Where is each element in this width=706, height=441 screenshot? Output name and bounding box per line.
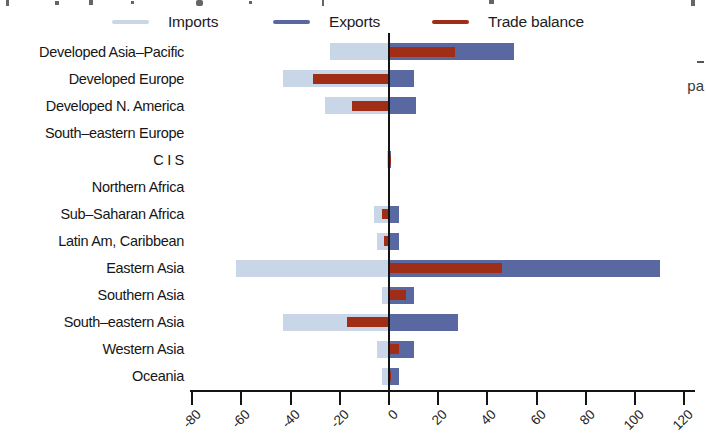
x-axis-tick xyxy=(683,392,685,405)
exports-bar xyxy=(389,206,399,223)
x-axis-tick xyxy=(585,392,587,405)
category-label: Developed N. America xyxy=(0,92,184,119)
legend-label-imports: Imports xyxy=(168,13,218,31)
legend-label-trade-balance: Trade balance xyxy=(488,13,584,31)
x-axis-tick xyxy=(388,392,390,405)
exports-swatch-icon xyxy=(273,20,310,24)
legend-item-trade-balance: Trade balance xyxy=(432,12,584,32)
trade-balance-bar xyxy=(313,74,389,84)
x-axis-tick-label: 80 xyxy=(563,407,598,441)
x-axis-tick-label: 60 xyxy=(514,407,549,441)
x-axis-tick-label: -80 xyxy=(169,407,204,441)
trade-balance-bar xyxy=(389,344,399,354)
trade-balance-swatch-icon xyxy=(432,20,469,24)
exports-bar xyxy=(389,314,458,331)
x-axis-tick-label: -40 xyxy=(268,407,303,441)
exports-bar xyxy=(389,97,416,114)
x-axis-tick-label: -20 xyxy=(317,407,352,441)
cropped-right-text: pa xyxy=(687,77,704,94)
imports-bar xyxy=(330,43,389,60)
legend-label-exports: Exports xyxy=(329,13,380,31)
category-label: Western Asia xyxy=(0,336,184,363)
plot-area xyxy=(190,38,702,390)
category-label: C I S xyxy=(0,146,184,173)
category-label: Developed Asia–Pacific xyxy=(0,38,184,65)
trade-balance-bar xyxy=(352,101,389,111)
x-axis-tick-label: 100 xyxy=(612,407,647,441)
trade-balance-bar xyxy=(389,263,502,273)
x-axis-tick xyxy=(191,392,193,405)
x-axis-tick xyxy=(536,392,538,405)
x-axis-tick xyxy=(240,392,242,405)
x-axis-tick-label: 120 xyxy=(661,407,696,441)
category-label: Developed Europe xyxy=(0,65,184,92)
category-axis: Developed Asia–PacificDeveloped EuropeDe… xyxy=(0,38,184,390)
category-label: Eastern Asia xyxy=(0,255,184,282)
x-axis-tick xyxy=(437,392,439,405)
x-axis-tick-label: 40 xyxy=(464,407,499,441)
x-axis-tick-label: -60 xyxy=(218,407,253,441)
x-axis-tick xyxy=(634,392,636,405)
category-label: Sub–Saharan Africa xyxy=(0,200,184,227)
trade-balance-bar xyxy=(389,47,455,57)
exports-bar xyxy=(389,233,399,250)
x-axis-line xyxy=(190,390,695,392)
x-axis-tick xyxy=(339,392,341,405)
category-label: Latin Am, Caribbean xyxy=(0,227,184,254)
category-label: South–eastern Asia xyxy=(0,309,184,336)
x-axis-tick xyxy=(290,392,292,405)
exports-bar xyxy=(389,70,414,87)
trade-balance-bar xyxy=(347,317,389,327)
legend-item-exports: Exports xyxy=(273,12,380,32)
imports-swatch-icon xyxy=(112,20,149,24)
zero-baseline xyxy=(388,33,390,392)
category-label: South–eastern Europe xyxy=(0,119,184,146)
cropped-right-dash xyxy=(697,61,704,63)
x-axis-tick-label: 20 xyxy=(415,407,450,441)
category-label: Southern Asia xyxy=(0,282,184,309)
legend-item-imports: Imports xyxy=(112,12,218,32)
category-label: Northern Africa xyxy=(0,173,184,200)
x-axis-tick-label: 0 xyxy=(366,407,401,441)
trade-balance-bar xyxy=(389,290,406,300)
x-axis: -80-60-40-20020406080100120 xyxy=(190,390,706,441)
x-axis-tick xyxy=(486,392,488,405)
imports-bar xyxy=(236,260,389,277)
category-label: Oceania xyxy=(0,363,184,390)
